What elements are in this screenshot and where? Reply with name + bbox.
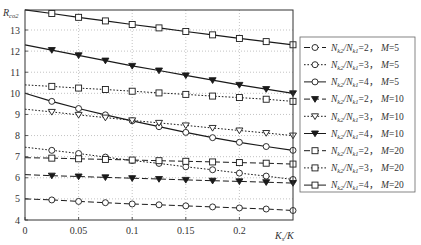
triangle-open-marker-icon: [75, 112, 82, 118]
square-marker-icon: [263, 160, 269, 166]
y-tick-label: 5: [15, 193, 20, 204]
square-marker-icon: [312, 148, 318, 154]
square-marker-icon: [156, 158, 162, 164]
square-marker-icon: [102, 87, 108, 93]
square-marker-icon: [129, 22, 135, 28]
y-tick-label: 9: [15, 109, 20, 120]
y-tick-label: 13: [10, 25, 20, 36]
circle-marker-icon: [210, 167, 216, 173]
square-marker-icon: [183, 158, 189, 164]
x-tick-label: 0.15: [177, 225, 195, 236]
circle-marker-icon: [312, 79, 318, 85]
circle-marker-icon: [183, 203, 189, 209]
circle-marker-icon: [76, 106, 82, 112]
circle-marker-icon: [156, 202, 162, 208]
series-line: [25, 83, 296, 104]
square-marker-icon: [102, 156, 108, 162]
x-tick-label: 0.2: [233, 225, 246, 236]
square-marker-icon: [156, 25, 162, 31]
square-marker-icon: [76, 14, 82, 20]
square-marker-icon: [210, 32, 216, 38]
series-line: [25, 10, 296, 48]
x-axis-label: Ks/K: [274, 230, 295, 242]
circle-marker-icon: [312, 62, 318, 68]
line-chart: 00.050.10.150.245678910111213 Rco2 Ks/K …: [0, 0, 421, 245]
circle-marker-icon: [236, 205, 242, 211]
y-tick-label: 8: [15, 130, 20, 141]
circle-marker-icon: [210, 135, 216, 141]
square-marker-icon: [263, 96, 269, 102]
square-marker-icon: [129, 157, 135, 163]
square-marker-icon: [102, 18, 108, 24]
square-marker-icon: [49, 83, 55, 89]
plot-area-frame: [25, 10, 293, 220]
square-marker-icon: [129, 88, 135, 94]
square-marker-icon: [263, 39, 269, 45]
y-tick-label: 4: [15, 215, 20, 226]
y-tick-label: 7: [15, 151, 20, 162]
square-marker-icon: [183, 28, 189, 34]
y-tick-label: 12: [10, 46, 20, 57]
y-tick-label: 11: [10, 67, 20, 78]
circle-marker-icon: [49, 98, 55, 104]
circle-marker-icon: [76, 198, 82, 204]
series-line: [25, 45, 297, 97]
series-line: [25, 197, 296, 214]
circle-marker-icon: [49, 147, 55, 153]
triangle-open-marker-icon: [102, 115, 109, 121]
square-marker-icon: [183, 91, 189, 97]
square-marker-icon: [210, 93, 216, 99]
square-marker-icon: [76, 156, 82, 162]
grid-lines: [25, 10, 293, 220]
circle-marker-icon: [263, 173, 269, 179]
circle-marker-icon: [236, 170, 242, 176]
chart-legend: Nk2/Nk1=2， M=5Nk2/Nk1=3， M=5Nk2/Nk1=4， M…: [300, 37, 415, 192]
x-tick-label: 0.05: [70, 225, 88, 236]
x-tick-label: 0: [23, 225, 28, 236]
circle-marker-icon: [263, 206, 269, 212]
x-tick-label: 0.1: [126, 225, 139, 236]
circle-marker-icon: [210, 204, 216, 210]
square-marker-icon: [49, 155, 55, 161]
y-tick-label: 6: [15, 172, 20, 183]
circle-marker-icon: [263, 144, 269, 150]
series-line: [25, 109, 297, 139]
square-marker-icon: [236, 95, 242, 101]
circle-marker-icon: [236, 139, 242, 145]
y-axis-label: Rco2: [2, 7, 19, 19]
circle-marker-icon: [129, 201, 135, 207]
circle-marker-icon: [312, 45, 318, 51]
square-marker-icon: [312, 182, 318, 188]
square-marker-icon: [236, 160, 242, 166]
circle-marker-icon: [49, 197, 55, 203]
data-series: [25, 10, 297, 214]
circle-marker-icon: [183, 129, 189, 135]
square-marker-icon: [312, 165, 318, 171]
circle-marker-icon: [102, 200, 108, 206]
square-marker-icon: [210, 159, 216, 165]
square-marker-icon: [236, 35, 242, 41]
square-marker-icon: [156, 90, 162, 96]
square-marker-icon: [76, 85, 82, 91]
square-marker-icon: [49, 11, 55, 17]
y-tick-label: 10: [10, 88, 20, 99]
